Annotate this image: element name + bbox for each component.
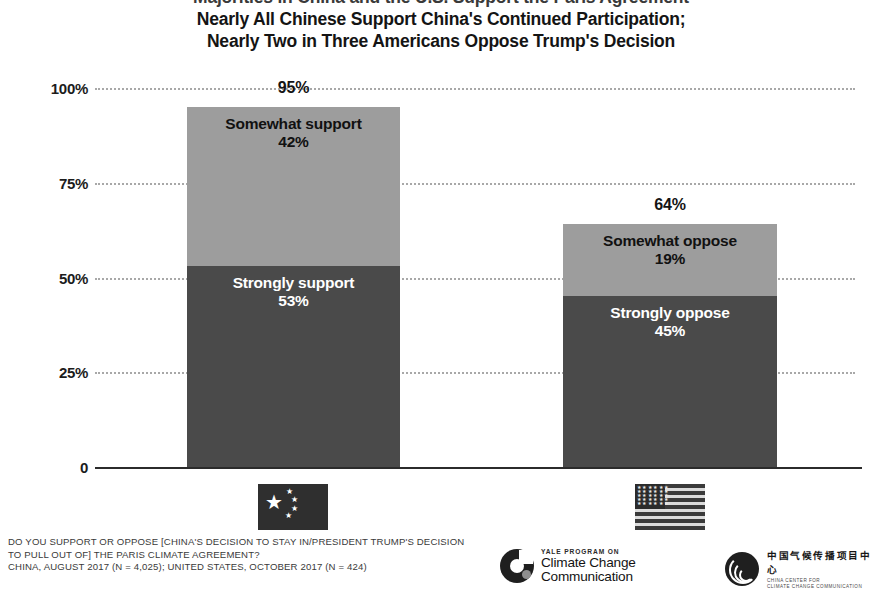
y-axis-tick-100: 100% (2, 80, 88, 97)
bar-segment-label-china-somewhat-support: Somewhat support 42% (187, 115, 400, 151)
y-axis-tick-75: 75% (2, 174, 88, 191)
bar-segment-china-somewhat-support[interactable]: Somewhat support 42% (187, 107, 400, 266)
bar-segment-us-somewhat-oppose[interactable]: Somewhat oppose 19% (563, 224, 777, 296)
china-center-chinese-name: 中国气候传播项目中心 (767, 548, 882, 576)
flag-star-small-3: ★ (291, 505, 298, 513)
flag-star-small-2: ★ (291, 496, 298, 504)
flag-star-row: ★★★★★★ (637, 502, 664, 507)
bar-total-label-china: 95% (187, 79, 400, 97)
yale-title-line-1: Climate Change (541, 556, 636, 570)
footnote-question-line-2: TO PULL OUT OF] THE PARIS CLIMATE AGREEM… (8, 549, 478, 562)
segment-text-label: Strongly oppose (610, 304, 729, 321)
bar-segment-label-us-strongly-oppose: Strongly oppose 45% (563, 304, 777, 340)
bar-segment-label-us-somewhat-oppose: Somewhat oppose 19% (563, 232, 777, 268)
flag-canton: ★★★★★★ ★★★★★★ ★★★★★★ ★★★★★★ ★★★★★★ (635, 484, 665, 509)
ring-notch (519, 550, 533, 564)
y-axis-tick-50: 50% (2, 269, 88, 286)
bar-group-united-states[interactable]: 64% Somewhat oppose 19% Strongly oppose … (563, 224, 777, 467)
china-center-swirl-icon (725, 552, 759, 586)
segment-pct-label: 19% (563, 250, 777, 268)
bar-segment-label-china-strongly-support: Strongly support 53% (187, 274, 400, 310)
footnote-sample-line: CHINA, AUGUST 2017 (N = 4,025); UNITED S… (8, 561, 478, 574)
bar-segment-china-strongly-support[interactable]: Strongly support 53% (187, 266, 400, 467)
bar-total-label-united-states: 64% (563, 196, 777, 214)
logo-row: YALE PROGRAM ON Climate Change Communica… (500, 548, 882, 588)
bar-group-china[interactable]: 95% Somewhat support 42% Strongly suppor… (187, 107, 400, 467)
yale-eyebrow: YALE PROGRAM ON (541, 548, 636, 555)
china-center-logo-text: 中国气候传播项目中心 CHINA CENTER FOR CLIMATE CHAN… (767, 548, 882, 590)
y-axis-labels: 100% 75% 50% 25% 0 (0, 0, 88, 584)
yale-logo-text: YALE PROGRAM ON Climate Change Communica… (541, 548, 636, 585)
yale-program-logo: YALE PROGRAM ON Climate Change Communica… (500, 548, 636, 585)
yale-ring-icon (500, 549, 534, 583)
china-flag-icon: ★ ★ ★ ★ ★ (258, 484, 328, 530)
flag-stripe (635, 512, 705, 516)
segment-text-label: Strongly support (233, 274, 355, 291)
china-center-logo: 中国气候传播项目中心 CHINA CENTER FOR CLIMATE CHAN… (725, 548, 882, 590)
bar-segment-us-strongly-oppose[interactable]: Strongly oppose 45% (563, 296, 777, 467)
segment-text-label: Somewhat support (225, 115, 361, 132)
swirl-ring-inner (739, 568, 753, 582)
flag-stripe (635, 526, 705, 530)
segment-pct-label: 42% (187, 133, 400, 151)
segment-text-label: Somewhat oppose (603, 232, 737, 249)
yale-title-line-2: Communication (541, 570, 636, 584)
ring-dot (522, 570, 531, 579)
x-axis-line (95, 467, 862, 469)
y-axis-tick-0: 0 (2, 459, 88, 476)
flag-star-small-4: ★ (285, 512, 292, 520)
footnote-question-line-1: DO YOU SUPPORT OR OPPOSE [CHINA'S DECISI… (8, 536, 478, 549)
y-axis-tick-25: 25% (2, 364, 88, 381)
footnote-block: DO YOU SUPPORT OR OPPOSE [CHINA'S DECISI… (8, 536, 478, 574)
flag-stripe (635, 519, 705, 523)
china-center-english-line-2: CLIMATE CHANGE COMMUNICATION (767, 584, 882, 590)
segment-pct-label: 45% (563, 322, 777, 340)
usa-flag-icon: ★★★★★★ ★★★★★★ ★★★★★★ ★★★★★★ ★★★★★★ (635, 484, 705, 530)
flag-star-large: ★ (265, 492, 283, 512)
segment-pct-label: 53% (187, 292, 400, 310)
